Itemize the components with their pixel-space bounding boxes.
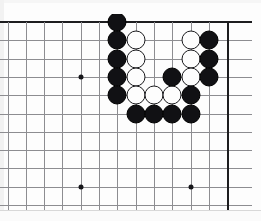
black-stone[interactable] [181, 104, 200, 123]
black-stone[interactable] [108, 31, 127, 50]
go-board[interactable] [0, 14, 252, 210]
black-stone[interactable] [199, 31, 218, 50]
white-stone[interactable] [126, 86, 145, 105]
white-stone[interactable] [144, 86, 163, 105]
black-stone[interactable] [108, 14, 127, 32]
white-stone[interactable] [181, 67, 200, 86]
black-stone[interactable] [144, 104, 163, 123]
black-stone[interactable] [108, 49, 127, 68]
white-stone[interactable] [126, 31, 145, 50]
black-stone[interactable] [199, 49, 218, 68]
black-stone[interactable] [199, 67, 218, 86]
white-stone[interactable] [181, 49, 200, 68]
black-stone[interactable] [163, 104, 182, 123]
go-diagram-page [0, 0, 261, 221]
black-stone[interactable] [126, 104, 145, 123]
white-stone[interactable] [181, 31, 200, 50]
white-stone[interactable] [163, 86, 182, 105]
white-stone[interactable] [126, 67, 145, 86]
white-stone[interactable] [126, 49, 145, 68]
black-stone[interactable] [163, 67, 182, 86]
board-stones[interactable] [0, 14, 252, 210]
black-stone[interactable] [181, 86, 200, 105]
black-stone[interactable] [108, 67, 127, 86]
black-stone[interactable] [108, 86, 127, 105]
page-edge-bottom [0, 210, 261, 221]
page-edge-top [0, 0, 261, 3]
